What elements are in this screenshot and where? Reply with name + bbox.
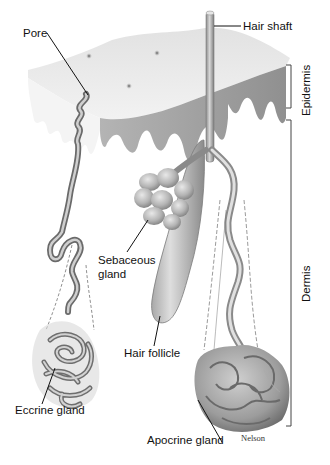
label-hair-follicle: Hair follicle xyxy=(124,347,180,359)
apocrine-duct xyxy=(204,150,258,360)
pore-dot xyxy=(86,53,92,59)
hair-shaft xyxy=(206,11,214,162)
layer-brackets xyxy=(286,65,291,426)
eccrine-gland xyxy=(32,321,99,408)
label-pore: Pore xyxy=(23,27,47,39)
epidermis-bracket xyxy=(286,65,291,108)
label-apocrine-gland: Apocrine gland xyxy=(147,434,224,446)
skin-surface xyxy=(28,28,290,162)
skin-diagram: Pore Hair shaft Sebaceous gland Hair fol… xyxy=(0,0,330,465)
sebaceous-leader xyxy=(127,220,148,252)
label-dermis: Dermis xyxy=(300,265,312,302)
pore-dot xyxy=(154,50,160,56)
label-hair-shaft: Hair shaft xyxy=(243,20,293,32)
label-eccrine-gland: Eccrine gland xyxy=(15,404,85,416)
artist-signature: Nelson xyxy=(241,433,266,443)
pore-dot xyxy=(126,83,132,89)
label-sebaceous-line2: gland xyxy=(98,268,126,280)
label-sebaceous-line1: Sebaceous xyxy=(98,254,156,266)
label-epidermis: Epidermis xyxy=(300,65,312,116)
